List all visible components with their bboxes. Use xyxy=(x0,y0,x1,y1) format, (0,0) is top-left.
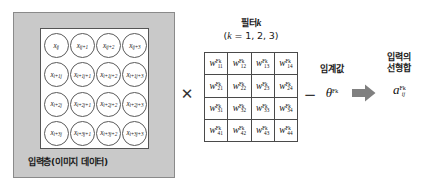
threshold-group: 임계값 θFk xyxy=(310,62,354,101)
right-arrow-icon xyxy=(352,84,376,102)
input-layer-caption: 입력층(이미지 데이터) xyxy=(28,155,108,168)
filter-weight-cell: wFk11 xyxy=(205,53,228,75)
filter-weight-cell: wFk43 xyxy=(252,120,275,142)
filter-weight-label: wFk44 xyxy=(279,125,292,136)
output-caption-line2: 선형합 xyxy=(376,63,422,74)
multiply-icon: ✕ xyxy=(179,86,195,102)
input-layer-box: xij xij+1 xij+2 xij+3 xi+1j xi+1j+1 xi+1… xyxy=(13,12,175,178)
input-neuron: xi+1j+1 xyxy=(69,60,95,89)
filter-weight-cell: wFk13 xyxy=(252,53,275,75)
input-neuron: xi+3j xyxy=(43,119,69,148)
input-neuron: xij xyxy=(43,31,69,60)
input-neuron-label: xij xyxy=(53,42,58,50)
threshold-caption: 임계값 xyxy=(310,62,354,75)
filter-weight-cell: wFk34 xyxy=(275,98,298,120)
filter-weight-label: wFk33 xyxy=(256,103,269,114)
filter-weight-cell: wFk42 xyxy=(228,120,251,142)
input-neuron-label: xi+1j xyxy=(51,71,62,79)
filter-index-range: (k = 1, 2, 3) xyxy=(204,30,298,41)
input-neuron: xi+2j xyxy=(43,90,69,119)
input-neuron-label: xi+1j+3 xyxy=(126,71,143,79)
filter-weight-label: wFk23 xyxy=(256,81,269,92)
filter-weight-label: wFk41 xyxy=(210,125,223,136)
filter-title: 필터k xyxy=(204,16,298,29)
output-caption-line1: 입력의 xyxy=(376,52,422,63)
filter-weight-cell: wFk22 xyxy=(228,75,251,97)
filter-weight-cell: wFk24 xyxy=(275,75,298,97)
filter-weight-label: wFk32 xyxy=(233,103,246,114)
input-neuron-label: xi+2j xyxy=(51,100,62,108)
input-neuron: xi+2j+3 xyxy=(122,90,148,119)
input-neuron-label: xi+2j+3 xyxy=(126,100,143,108)
input-grid-container: xij xij+1 xij+2 xij+3 xi+1j xi+1j+1 xi+1… xyxy=(40,28,149,149)
input-neuron-label: xij+2 xyxy=(103,42,114,50)
input-neuron: xi+2j+2 xyxy=(96,90,122,119)
input-neuron-label: xij+3 xyxy=(129,42,140,50)
input-neuron-label: xi+2j+1 xyxy=(74,100,91,108)
input-neuron: xi+1j+3 xyxy=(122,60,148,89)
filter-weight-cell: wFk32 xyxy=(228,98,251,120)
filter-weight-label: wFk11 xyxy=(210,58,223,69)
input-neuron-grid: xij xij+1 xij+2 xij+3 xi+1j xi+1j+1 xi+1… xyxy=(43,31,148,148)
input-neuron: xi+1j+2 xyxy=(96,60,122,89)
filter-weight-label: wFk22 xyxy=(233,81,246,92)
diagram-canvas: xij xij+1 xij+2 xij+3 xi+1j xi+1j+1 xi+1… xyxy=(0,0,424,189)
filter-weight-cell: wFk12 xyxy=(228,53,251,75)
filter-weight-cell: wFk14 xyxy=(275,53,298,75)
output-symbol: aFkij xyxy=(376,82,422,98)
input-neuron: xi+3j+2 xyxy=(96,119,122,148)
filter-weight-cell: wFk23 xyxy=(252,75,275,97)
filter-weight-label: wFk34 xyxy=(279,103,292,114)
filter-weight-label: wFk43 xyxy=(256,125,269,136)
input-neuron-label: xi+3j xyxy=(51,129,62,137)
filter-weight-label: wFk12 xyxy=(233,58,246,69)
filter-weight-cell: wFk44 xyxy=(275,120,298,142)
input-neuron: xij+2 xyxy=(96,31,122,60)
output-group: 입력의 선형합 aFkij xyxy=(376,52,422,98)
filter-heading: 필터k (k = 1, 2, 3) xyxy=(204,16,298,41)
input-neuron-label: xi+2j+2 xyxy=(100,100,117,108)
input-neuron-label: xi+1j+2 xyxy=(100,71,117,79)
filter-weight-cell: wFk33 xyxy=(252,98,275,120)
filter-weight-label: wFk21 xyxy=(210,81,223,92)
input-neuron-label: xi+3j+1 xyxy=(74,129,91,137)
input-neuron-label: xij+1 xyxy=(77,42,88,50)
threshold-symbol: θFk xyxy=(310,85,354,101)
input-neuron-label: xi+3j+2 xyxy=(100,129,117,137)
input-neuron-label: xi+3j+3 xyxy=(126,129,143,137)
input-neuron: xi+2j+1 xyxy=(69,90,95,119)
filter-weight-label: wFk42 xyxy=(233,125,246,136)
filter-weight-cell: wFk21 xyxy=(205,75,228,97)
input-neuron: xij+3 xyxy=(122,31,148,60)
filter-weight-label: wFk31 xyxy=(210,103,223,114)
input-neuron: xi+3j+1 xyxy=(69,119,95,148)
input-neuron: xi+3j+3 xyxy=(122,119,148,148)
input-neuron: xi+1j xyxy=(43,60,69,89)
filter-weight-label: wFk24 xyxy=(279,81,292,92)
input-neuron-label: xi+1j+1 xyxy=(74,71,91,79)
filter-weight-label: wFk14 xyxy=(279,58,292,69)
filter-weight-matrix: wFk11 wFk12 wFk13 wFk14 wFk21 wFk22 wFk2… xyxy=(204,52,298,142)
input-neuron: xij+1 xyxy=(69,31,95,60)
filter-weight-cell: wFk41 xyxy=(205,120,228,142)
filter-weight-cell: wFk31 xyxy=(205,98,228,120)
filter-weight-label: wFk13 xyxy=(256,58,269,69)
